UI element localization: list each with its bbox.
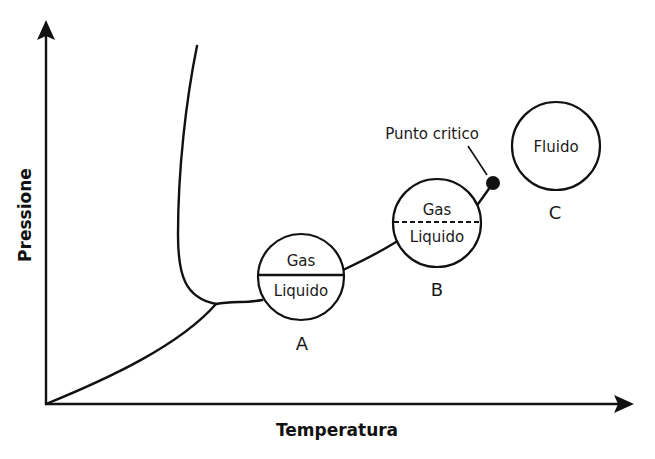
critical-point-leader-line [468, 146, 487, 175]
state-a: Gas Liquido A [258, 234, 344, 354]
melting-curve [178, 46, 216, 304]
state-c: Fluido C [512, 102, 600, 223]
phase-diagram: Temperatura Pressione Gas Liquido A Gas … [0, 0, 655, 459]
phase-diagram-svg: Temperatura Pressione Gas Liquido A Gas … [0, 0, 655, 459]
state-a-gas-label: Gas [287, 252, 316, 270]
y-axis-title: Pressione [15, 168, 35, 262]
state-c-letter: C [549, 202, 562, 223]
state-b-liquid-label: Liquido [410, 228, 464, 246]
critical-point-label: Punto critico [385, 125, 479, 143]
x-axis-title: Temperatura [276, 420, 398, 440]
state-b-gas-label: Gas [423, 201, 452, 219]
vaporization-curve-segment-1 [216, 300, 262, 304]
state-b-letter: B [431, 279, 443, 300]
y-axis [37, 20, 55, 404]
state-a-letter: A [296, 333, 309, 354]
state-a-liquid-label: Liquido [274, 282, 328, 300]
state-b: Gas Liquido B [393, 179, 481, 300]
state-a-circle [258, 234, 344, 320]
sublimation-curve [46, 304, 216, 404]
x-axis [46, 395, 634, 413]
critical-point-dot-icon [486, 176, 500, 190]
state-c-fluid-label: Fluido [533, 138, 578, 156]
vaporization-curve-segment-2 [343, 242, 396, 270]
